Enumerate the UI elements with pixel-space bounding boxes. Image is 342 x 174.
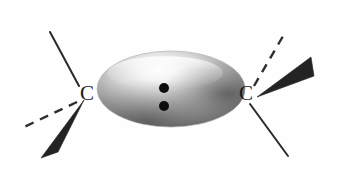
electron-dot-lower [159,101,169,111]
bond-left-plain-up [50,32,79,86]
pi-electron-cloud [97,51,245,127]
chemistry-figure: C C [0,0,342,174]
bond-left-wedge-down [41,100,84,158]
bond-right-dashed-up [254,31,286,86]
electron-dot-upper [159,83,169,93]
bond-right-plain-down [250,104,288,156]
atom-label-carbon-right: C [239,81,253,105]
atom-label-carbon-left: C [80,81,94,105]
bond-right-wedge-up [257,57,314,97]
molecule-diagram: C C [0,0,342,174]
